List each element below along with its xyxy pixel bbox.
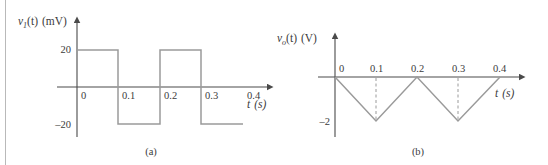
figure-root: 20 –20 0 0.1 0.2 0.3 0.4 v1(t)(mV) t(s) …: [0, 0, 548, 165]
caption-b: (b): [412, 146, 425, 158]
y-axis-label-b-unit: (V): [301, 32, 317, 45]
xtick-label-b-01: 0.1: [370, 63, 383, 74]
x-axis-label-b: t(s): [495, 87, 515, 100]
chart-panel-b: –2 0 0.1 0.2 0.3 0.4 vo(t)(V) t(s) (b): [0, 0, 548, 165]
waveform-triangle-b: [335, 77, 500, 121]
x-axis-label-b-var: t: [495, 87, 499, 99]
xtick-label-b-02: 0.2: [411, 63, 424, 74]
ytick-label-b-neg2: –2: [319, 116, 331, 127]
xtick-label-b-03: 0.3: [452, 63, 465, 74]
x-axis-label-b-unit: (s): [502, 87, 514, 100]
y-axis-label-b: vo(t)(V): [277, 32, 317, 47]
y-axis-label-b-arg: (t): [286, 32, 297, 45]
xtick-label-b-0: 0: [339, 63, 344, 74]
xtick-label-b-04: 0.4: [493, 63, 507, 74]
